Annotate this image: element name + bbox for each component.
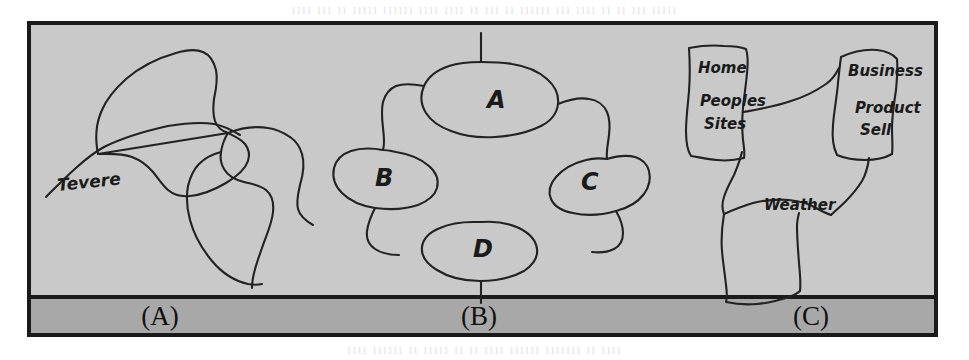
ink-stroke-3 <box>383 128 384 150</box>
panel-c-label-peoples: Peoples <box>700 92 766 110</box>
panel-caption-a: (A) <box>141 301 178 331</box>
panel-b-label-d: D <box>473 235 493 263</box>
panel-c-label-business: Business <box>848 62 923 80</box>
panel-b-label-c: C <box>581 168 599 196</box>
panel-caption-c: (C) <box>793 301 829 331</box>
panel-b-label-a: A <box>485 86 506 114</box>
figure-svg: Tevere ABCD HomePeoplesSitesBusinessProd… <box>0 0 969 360</box>
panel-c-label-weather: Weather <box>764 196 837 214</box>
panel-caption-b: (B) <box>461 301 497 331</box>
panel-b-label-b: B <box>375 164 393 192</box>
figure-container: Tevere ABCD HomePeoplesSitesBusinessProd… <box>0 0 969 360</box>
panel-c-label-sell: Sell <box>860 121 892 139</box>
panel-c-label-product: Product <box>855 99 922 117</box>
panel-c-label-home: Home <box>698 59 747 77</box>
panel-c-label-sites: Sites <box>704 115 746 133</box>
